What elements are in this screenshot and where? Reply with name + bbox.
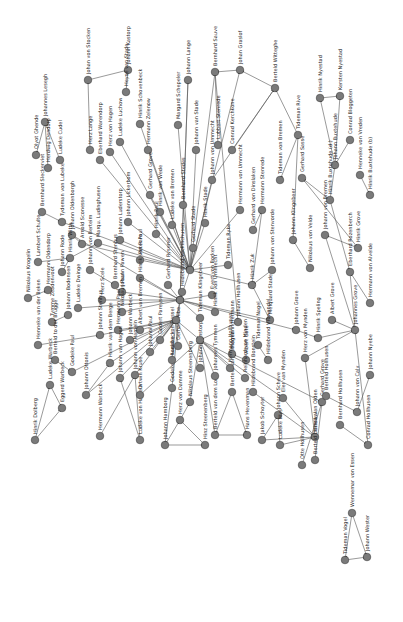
graph-node[interactable]: Hinrik van dem Berge [106, 303, 114, 367]
graph-node[interactable]: Hinrik Schovenbeck [136, 68, 144, 127]
graph-node[interactable]: Herz von Hagen [106, 106, 114, 156]
graph-node[interactable]: Johannes Grove [351, 285, 359, 334]
graph-node[interactable]: Albert Grove [328, 282, 336, 323]
node-circle[interactable] [196, 336, 204, 344]
graph-node[interactable]: Hermann Zelenow [144, 98, 152, 154]
node-circle[interactable] [168, 221, 176, 229]
graph-node[interactable]: Tideman Klingebeer [196, 261, 204, 322]
node-circle[interactable] [211, 431, 219, 439]
graph-node[interactable]: Hinrik Witte [66, 223, 74, 262]
node-circle[interactable] [268, 266, 276, 274]
node-circle[interactable] [58, 404, 66, 412]
graph-node[interactable]: Gerhard Sasse [298, 136, 306, 182]
node-circle[interactable] [38, 208, 46, 216]
graph-node[interactable]: Ludeke Dwinge [74, 264, 82, 312]
node-circle[interactable] [346, 136, 354, 144]
graph-node[interactable]: Eberhard Rozenberch [346, 212, 354, 275]
node-circle[interactable] [146, 191, 154, 199]
node-circle[interactable] [214, 141, 222, 149]
graph-node[interactable]: Henneke van der Beken [34, 279, 42, 349]
graph-node[interactable]: Hinrik Zuk [248, 253, 256, 289]
graph-node[interactable]: Bernhard Stenhus [111, 234, 119, 289]
graph-node[interactable]: Hermann Hollhusen [226, 313, 234, 372]
node-circle[interactable] [184, 76, 192, 84]
node-circle[interactable] [34, 258, 42, 266]
graph-node[interactable]: Hinz Steenenberg [201, 394, 209, 448]
node-circle[interactable] [211, 308, 219, 316]
node-circle[interactable] [31, 436, 39, 444]
graph-node[interactable]: Hans Hevenman [243, 388, 251, 439]
graph-node[interactable]: Johann Hamborg [161, 397, 169, 449]
graph-node[interactable]: Johann von Calv [353, 366, 361, 416]
graph-node[interactable]: Berteld Witteghe [271, 40, 279, 92]
graph-node[interactable]: Berteld Dorrowal [311, 412, 319, 464]
graph-node[interactable]: Conrad Hollhusen [364, 395, 372, 449]
graph-node[interactable]: Reinhard von Minden [241, 319, 249, 382]
graph-node[interactable]: Eberhard Warendorp [96, 102, 104, 163]
graph-node[interactable]: Johann von Berteim [86, 215, 94, 274]
node-circle[interactable] [264, 356, 272, 364]
graph-node[interactable]: Ludeke Warbeck [46, 338, 54, 389]
node-circle[interactable] [86, 266, 94, 274]
graph-node[interactable]: Hinrik Nyestad [316, 55, 324, 102]
graph-node[interactable]: Gerhard Rysener [164, 236, 172, 289]
node-circle[interactable] [306, 264, 314, 272]
node-circle[interactable] [82, 391, 90, 399]
graph-node[interactable]: Kersten Nyestad [336, 49, 344, 100]
graph-node[interactable]: Johann van Stade [192, 100, 200, 154]
node-circle[interactable] [336, 421, 344, 429]
node-circle[interactable] [94, 239, 102, 247]
node-circle[interactable] [189, 244, 197, 252]
node-circle[interactable] [292, 326, 300, 334]
graph-node[interactable]: Gerhard Stade [189, 206, 197, 252]
node-circle[interactable] [258, 436, 266, 444]
graph-node[interactable]: Marqu. Ludinghusen [94, 186, 102, 247]
node-circle[interactable] [136, 120, 144, 128]
node-circle[interactable] [156, 336, 164, 344]
node-circle[interactable] [168, 384, 176, 392]
graph-node[interactable]: Jakob Schoyter [258, 396, 266, 444]
node-circle[interactable] [249, 226, 257, 234]
graph-node[interactable]: Gerhard von Dinslaken [249, 167, 257, 234]
graph-node[interactable]: Henneke von Vreden [356, 117, 364, 179]
node-circle[interactable] [74, 304, 82, 312]
node-circle[interactable] [172, 316, 180, 324]
graph-node[interactable]: Hinrik Stade [201, 186, 209, 227]
node-circle[interactable] [34, 341, 42, 349]
node-circle[interactable] [322, 392, 330, 400]
node-circle[interactable] [346, 268, 354, 276]
graph-node[interactable]: Wennemar von Essen [348, 453, 356, 517]
graph-node[interactable]: Johann Grove [292, 290, 300, 333]
graph-node[interactable]: Ludeke Wys [276, 409, 284, 449]
node-circle[interactable] [353, 408, 361, 416]
graph-node[interactable]: Ludeke Cudel [56, 120, 64, 164]
node-circle[interactable] [279, 394, 287, 402]
node-circle[interactable] [96, 432, 104, 440]
node-circle[interactable] [56, 156, 64, 164]
graph-node[interactable]: Tideman Vogel [341, 517, 349, 564]
graph-node[interactable]: Godeke Paul [68, 335, 76, 376]
node-circle[interactable] [196, 364, 204, 372]
node-circle[interactable] [236, 66, 244, 74]
node-circle[interactable] [192, 146, 200, 154]
node-circle[interactable] [136, 391, 144, 399]
graph-node[interactable]: Heyse van Stade [122, 44, 130, 96]
graph-node[interactable]: Tideman Ryke [224, 224, 232, 269]
graph-node[interactable] [196, 336, 204, 344]
node-circle[interactable] [348, 509, 356, 517]
graph-node[interactable]: Johann Hollhusen [234, 273, 242, 326]
node-circle[interactable] [356, 171, 364, 179]
graph-node[interactable] [186, 266, 194, 274]
graph-node[interactable]: Hermann Stenrede [258, 157, 266, 214]
node-circle[interactable] [254, 341, 262, 349]
node-circle[interactable] [111, 281, 119, 289]
graph-node[interactable]: Hermann von Ummecht [236, 144, 244, 214]
graph-node[interactable]: Otte Hollhusen [298, 422, 306, 469]
node-circle[interactable] [116, 374, 124, 382]
node-circle[interactable] [168, 356, 176, 364]
node-circle[interactable] [136, 436, 144, 444]
node-circle[interactable] [152, 230, 160, 238]
graph-node[interactable]: Herz von Mynden [301, 308, 309, 362]
graph-node[interactable]: Johann Wester [363, 514, 371, 561]
node-circle[interactable] [298, 461, 306, 469]
